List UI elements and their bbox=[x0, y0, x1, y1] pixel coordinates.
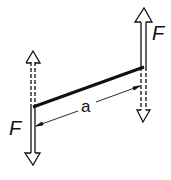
force-couple-diagram: F F a bbox=[0, 0, 171, 180]
force-label-top: F bbox=[152, 22, 164, 45]
force-label-bottom: F bbox=[9, 117, 21, 140]
distance-label: a bbox=[81, 97, 90, 117]
diagram-graphic bbox=[0, 0, 171, 180]
left-force-arrow bbox=[25, 51, 40, 165]
right-force-arrow bbox=[135, 8, 152, 122]
